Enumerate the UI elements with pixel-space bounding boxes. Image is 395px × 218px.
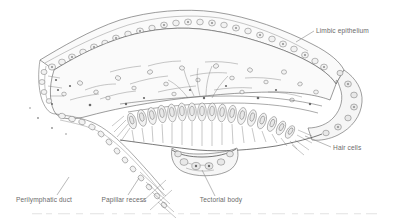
figure-container: Limbic epithelium Hair cells Tectorial b… xyxy=(0,0,395,218)
label-limbic-epithelium: Limbic epithelium xyxy=(316,27,369,35)
label-hair-cells: Hair cells xyxy=(333,144,362,151)
label-perilymphatic-duct: Perilymphatic duct xyxy=(16,196,72,204)
label-tectorial-body: Tectorial body xyxy=(200,196,243,204)
label-papillar-recess: Papillar recess xyxy=(101,196,147,204)
